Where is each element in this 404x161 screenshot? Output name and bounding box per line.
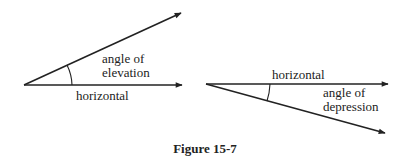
horizontal-label-right: horizontal bbox=[272, 67, 325, 82]
angle-figure: angle of elevation horizontal horizontal… bbox=[0, 0, 404, 161]
elevation-label-line2: elevation bbox=[102, 65, 150, 80]
elevation-angle-arc bbox=[67, 65, 72, 85]
depression-diagram: horizontal angle of depression bbox=[206, 67, 388, 133]
depression-label-line2: depression bbox=[323, 99, 379, 114]
elevation-diagram: angle of elevation horizontal bbox=[24, 13, 182, 103]
horizontal-label-left: horizontal bbox=[76, 88, 129, 103]
depression-angle-arc bbox=[267, 84, 270, 101]
figure-caption: Figure 15-7 bbox=[173, 141, 237, 156]
depression-label-line1: angle of bbox=[323, 85, 366, 100]
elevation-label-line1: angle of bbox=[102, 51, 145, 66]
